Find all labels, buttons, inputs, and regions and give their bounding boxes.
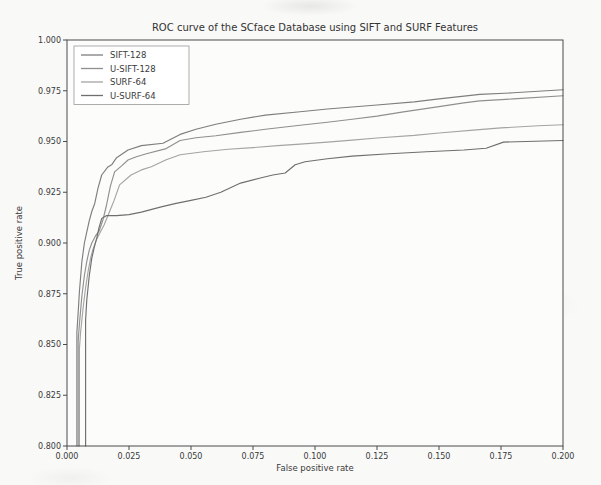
y-tick-label: 0.950	[38, 137, 61, 146]
y-axis-label: True positive rate	[14, 206, 24, 281]
y-tick-label: 0.825	[38, 391, 61, 400]
legend-label: U-SIFT-128	[110, 64, 156, 74]
x-tick-label: 0.075	[242, 452, 265, 461]
legend-label: U-SURF-64	[110, 91, 156, 101]
y-tick-label: 0.800	[38, 442, 61, 451]
legend-label: SIFT-128	[110, 50, 146, 60]
y-tick-label: 0.925	[38, 188, 61, 197]
x-tick-label: 0.025	[118, 452, 141, 461]
chart-title: ROC curve of the SCface Database using S…	[152, 22, 478, 33]
y-tick-label: 0.900	[38, 239, 61, 248]
x-tick-label: 0.200	[552, 452, 575, 461]
x-tick-label: 0.000	[56, 452, 79, 461]
y-tick-label: 0.975	[38, 87, 61, 96]
x-tick-label: 0.050	[180, 452, 203, 461]
x-tick-label: 0.175	[490, 452, 513, 461]
y-tick-label: 1.000	[38, 36, 61, 45]
x-tick-label: 0.125	[366, 452, 389, 461]
scanned-figure-page: 0.0000.0250.0500.0750.1000.1250.1500.175…	[0, 0, 601, 485]
roc-chart: 0.0000.0250.0500.0750.1000.1250.1500.175…	[0, 0, 601, 485]
y-tick-label: 0.875	[38, 290, 61, 299]
legend-label: SURF-64	[110, 77, 146, 87]
legend: SIFT-128U-SIFT-128SURF-64U-SURF-64	[74, 46, 189, 105]
x-tick-label: 0.150	[428, 452, 451, 461]
x-tick-label: 0.100	[304, 452, 327, 461]
y-tick-label: 0.850	[38, 340, 61, 349]
x-axis-label: False positive rate	[276, 463, 353, 473]
